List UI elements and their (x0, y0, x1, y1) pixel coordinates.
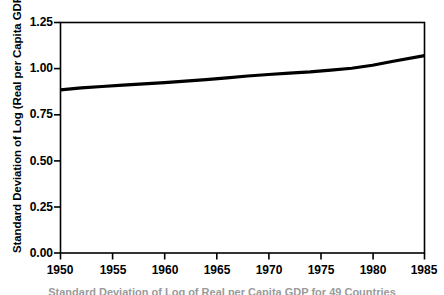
x-tick-label: 1970 (239, 264, 299, 276)
chart-figure: Standard Deviation of Log (Real per Capi… (0, 0, 444, 295)
x-tick-label: 1955 (83, 264, 143, 276)
figure-caption: Standard Deviation of Log of Real per Ca… (0, 286, 444, 295)
x-tick-label: 1985 (394, 264, 444, 276)
x-tick-label: 1965 (187, 264, 247, 276)
x-tick-label: 1975 (291, 264, 351, 276)
x-axis-tick-labels: 1950 1955 1960 1965 1970 1975 1980 1985 (0, 0, 444, 295)
x-tick-label: 1960 (135, 264, 195, 276)
x-tick-label: 1950 (30, 264, 90, 276)
